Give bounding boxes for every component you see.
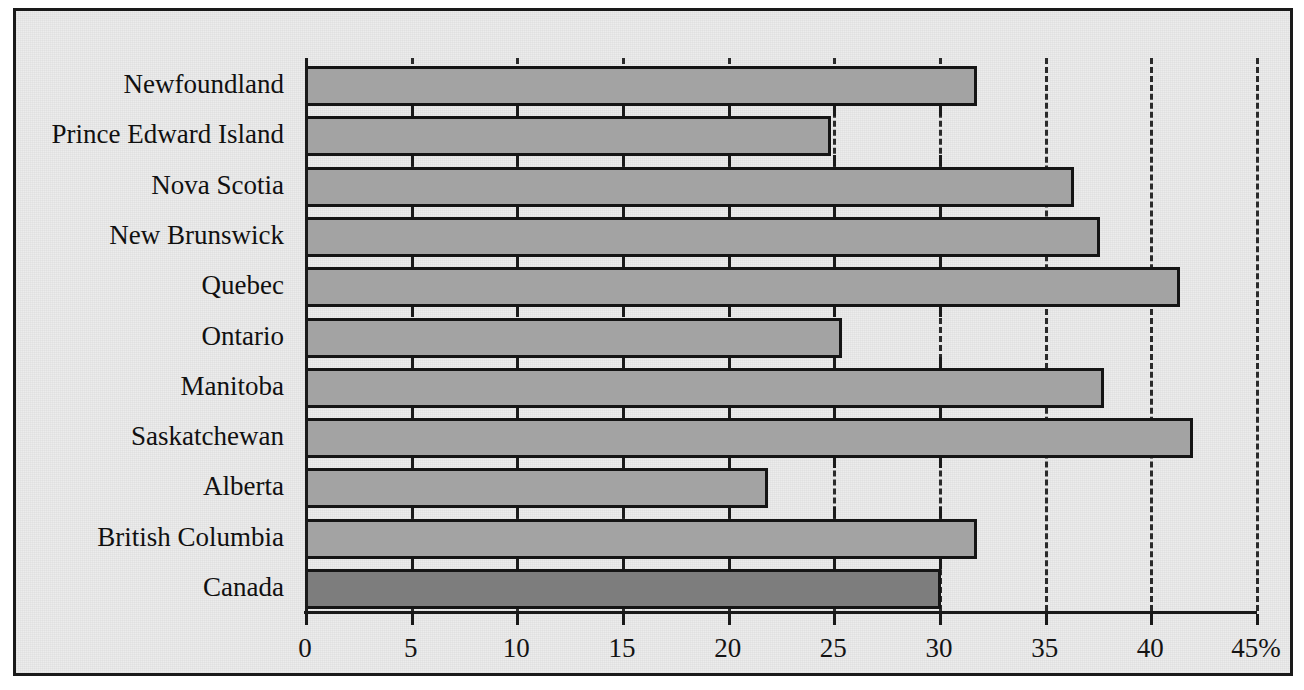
category-label-manitoba: Manitoba	[0, 371, 284, 402]
category-label-newfoundland: Newfoundland	[0, 69, 284, 100]
bar-saskatchewan	[305, 418, 1193, 458]
axis-tick-10	[516, 614, 519, 625]
bars	[305, 58, 1256, 611]
axis-tick-label-40: 40	[1137, 633, 1164, 664]
axis-tick-label-45: 45%	[1231, 633, 1281, 664]
axis-tick-label-30: 30	[926, 633, 953, 664]
axis-tick-20	[728, 614, 731, 625]
axis-tick-30	[939, 614, 942, 625]
bar-ontario	[305, 318, 842, 358]
bar-quebec	[305, 267, 1180, 307]
bar-new-brunswick	[305, 217, 1100, 257]
axis-tick-40	[1150, 614, 1153, 625]
bar-prince-edward-island	[305, 116, 831, 156]
bar-british-columbia	[305, 519, 977, 559]
category-label-canada: Canada	[0, 572, 284, 603]
bar-alberta	[305, 468, 768, 508]
category-label-nova-scotia: Nova Scotia	[0, 170, 284, 201]
category-label-british-columbia: British Columbia	[0, 522, 284, 553]
category-label-prince-edward-island: Prince Edward Island	[0, 119, 284, 150]
axis-tick-label-15: 15	[609, 633, 636, 664]
axis-tick-label-25: 25	[820, 633, 847, 664]
category-label-new-brunswick: New Brunswick	[0, 220, 284, 251]
axis-tick-0	[305, 614, 308, 625]
axis-tick-35	[1045, 614, 1048, 625]
axis-tick-label-5: 5	[404, 633, 418, 664]
bar-manitoba	[305, 368, 1104, 408]
value-axis-zero-line	[305, 58, 308, 614]
category-label-saskatchewan: Saskatchewan	[0, 421, 284, 452]
axis-tick-label-10: 10	[503, 633, 530, 664]
bar-newfoundland	[305, 66, 977, 106]
axis-tick-25	[833, 614, 836, 625]
axis-tick-label-20: 20	[714, 633, 741, 664]
bar-nova-scotia	[305, 167, 1074, 207]
axis-tick-5	[411, 614, 414, 625]
category-axis-labels: NewfoundlandPrince Edward IslandNova Sco…	[16, 58, 284, 611]
category-label-ontario: Ontario	[0, 321, 284, 352]
bar-canada	[305, 569, 941, 609]
bar-chart-plot-area: 051015202530354045%	[305, 58, 1256, 611]
category-label-alberta: Alberta	[0, 471, 284, 502]
axis-tick-label-35: 35	[1031, 633, 1058, 664]
category-label-quebec: Quebec	[0, 270, 284, 301]
axis-tick-15	[622, 614, 625, 625]
value-axis-line	[304, 611, 1257, 614]
gridline-45	[1256, 58, 1259, 611]
axis-tick-label-0: 0	[298, 633, 312, 664]
chart-figure-frame: NewfoundlandPrince Edward IslandNova Sco…	[13, 8, 1293, 676]
axis-tick-45	[1256, 614, 1259, 625]
